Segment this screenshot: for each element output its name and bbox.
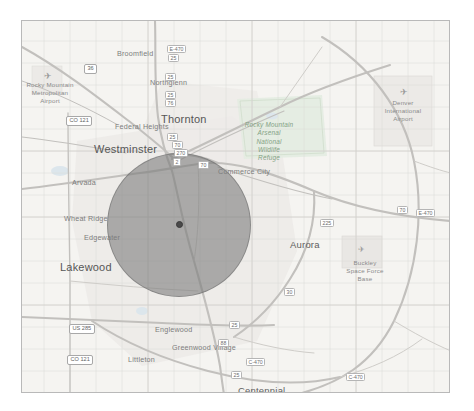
road-shield-c470-b: C-470 [346,373,365,381]
airport-icon-denver-international: ✈ [400,87,408,97]
screenshot-root: Broomfield Northglenn Thornton Federal H… [0,0,474,411]
road-shield-i25-d: 25 [167,133,178,141]
airport-icon-rocky-mountain: ✈ [44,71,52,81]
road-shield-co88: 88 [218,339,229,347]
road-shield-e470-east: E-470 [416,209,435,217]
road-shield-co121-north: CO 121 [66,116,92,126]
road-shield-i25-b: 25 [165,73,176,81]
road-shield-i225: 225 [320,219,334,227]
road-shield-i25-a: 25 [168,54,179,62]
road-shield-i25-f: 25 [231,371,242,379]
road-shield-c470-a: C-470 [246,358,265,366]
map-canvas[interactable]: Broomfield Northglenn Thornton Federal H… [22,21,449,392]
road-shield-e470-north: E-470 [167,45,186,53]
road-shield-co2: 2 [173,158,181,166]
road-shield-i25-e: 25 [229,321,240,329]
road-shield-co30: 30 [284,288,295,296]
road-shield-us285: US 285 [69,324,95,334]
airport-icon-buckley: ✈ [358,245,365,254]
road-shield-us36: 36 [84,64,97,74]
road-shield-i25-c: 25 [165,91,176,99]
road-shield-i70-c: 70 [397,206,408,214]
road-shield-i76: 76 [165,99,176,107]
road-shield-co121-south: CO 121 [67,355,93,365]
radius-center-marker[interactable] [176,221,183,228]
road-shield-i270: 270 [174,149,188,157]
road-shield-i70-b: 70 [198,161,209,169]
road-shield-i70-a: 70 [172,141,183,149]
map-frame[interactable]: Broomfield Northglenn Thornton Federal H… [21,20,450,393]
